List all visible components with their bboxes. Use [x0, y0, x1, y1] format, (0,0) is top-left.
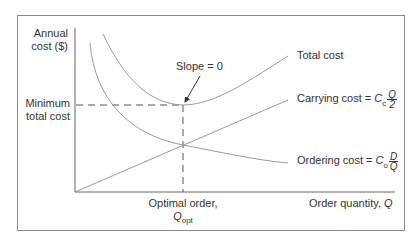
y-axis-label: Annual cost ($)	[28, 27, 68, 53]
total-cost-label: Total cost	[297, 49, 343, 62]
optimal-line1: Optimal order,	[143, 197, 223, 210]
carrying-cost-line	[75, 100, 288, 192]
ordering-fraction: DQ	[389, 152, 398, 171]
x-axis-label: Order quantity, Q	[309, 197, 393, 210]
carrying-den: 2	[387, 100, 397, 109]
ordering-den: Q	[389, 162, 398, 171]
optimal-sub: opt	[182, 216, 193, 225]
min-cost-line2: total cost	[14, 110, 70, 123]
slope-arrow	[185, 76, 200, 102]
optimal-q: Q	[173, 210, 182, 222]
ordering-sub: o	[384, 161, 388, 170]
optimal-order-label: Optimal order, Qopt	[143, 197, 223, 227]
min-total-cost-label: Minimum total cost	[14, 97, 70, 123]
carrying-sub: c	[382, 99, 386, 108]
carrying-cost-label: Carrying cost = CcQ2	[297, 90, 397, 110]
ordering-coef: C	[376, 154, 384, 166]
slope-label: Slope = 0	[176, 60, 223, 73]
y-axis-label-line2: cost ($)	[28, 40, 68, 53]
ordering-prefix: Ordering cost =	[297, 154, 376, 166]
ordering-cost-label: Ordering cost = CoDQ	[297, 152, 398, 172]
x-axis-var: Q	[384, 197, 393, 209]
min-cost-line1: Minimum	[14, 97, 70, 110]
y-axis-label-line1: Annual	[28, 27, 68, 40]
carrying-prefix: Carrying cost =	[297, 92, 374, 104]
x-axis-text: Order quantity,	[309, 197, 384, 209]
carrying-fraction: Q2	[387, 90, 397, 109]
